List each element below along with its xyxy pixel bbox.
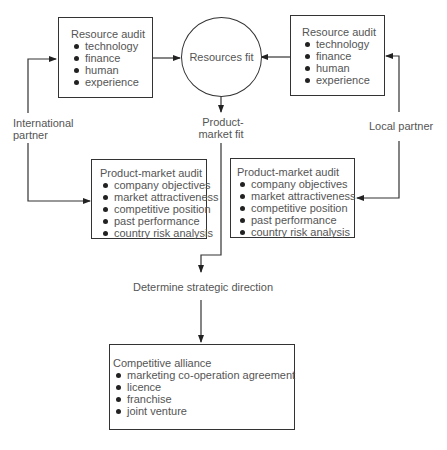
product-market-fit-label: Product- market fit xyxy=(202,116,244,140)
list-item: franchise xyxy=(113,393,294,405)
list-item: competitive position xyxy=(100,203,206,215)
resource-audit-left-list: technology finance human experience xyxy=(71,40,152,88)
product-market-audit-right-box: Product-market audit company objectives … xyxy=(230,158,355,238)
list-item: technology xyxy=(71,40,152,52)
strategic-direction-label: Determine strategic direction xyxy=(133,281,273,293)
list-item: company objectives xyxy=(237,178,354,190)
list-item: joint venture xyxy=(113,405,294,417)
product-market-audit-right-list: company objectives market attractiveness… xyxy=(237,178,354,238)
product-market-audit-left-title: Product-market audit xyxy=(100,167,206,179)
resource-audit-left-title: Resource audit xyxy=(71,28,152,40)
list-item: licence xyxy=(113,381,294,393)
resource-audit-left-box: Resource audit technology finance human … xyxy=(58,17,153,98)
list-item: technology xyxy=(302,38,384,50)
list-item: finance xyxy=(71,52,152,64)
list-item: country risk analysis xyxy=(100,227,206,239)
competitive-alliance-list: marketing co-operation agreement licence… xyxy=(113,369,294,417)
list-item: past performance xyxy=(237,214,354,226)
product-market-fit-line1: Product- xyxy=(202,116,244,128)
product-market-audit-left-list: company objectives market attractiveness… xyxy=(100,179,206,239)
international-partner-line2: partner xyxy=(13,129,74,141)
resource-audit-right-box: Resource audit technology finance human … xyxy=(290,15,385,96)
list-item: country risk analysis xyxy=(237,226,354,238)
resource-audit-right-list: technology finance human experience xyxy=(302,38,384,86)
list-item: human xyxy=(302,62,384,74)
list-item: marketing co-operation agreement xyxy=(113,369,294,381)
product-market-audit-right-title: Product-market audit xyxy=(237,166,354,178)
international-partner-label: International partner xyxy=(13,117,74,141)
list-item: market attractiveness xyxy=(237,190,354,202)
list-item: past performance xyxy=(100,215,206,227)
resources-fit-circle: Resources fit xyxy=(181,17,262,97)
product-market-audit-left-box: Product-market audit company objectives … xyxy=(91,159,207,239)
list-item: experience xyxy=(302,74,384,86)
list-item: human xyxy=(71,64,152,76)
product-market-fit-line2: market fit xyxy=(198,128,244,140)
resource-audit-right-title: Resource audit xyxy=(302,26,384,38)
list-item: finance xyxy=(302,50,384,62)
list-item: company objectives xyxy=(100,179,206,191)
international-partner-line1: International xyxy=(13,117,74,129)
list-item: experience xyxy=(71,76,152,88)
competitive-alliance-title: Competitive alliance xyxy=(113,357,294,369)
list-item: competitive position xyxy=(237,202,354,214)
competitive-alliance-box: Competitive alliance marketing co-operat… xyxy=(109,344,295,430)
local-partner-label: Local partner xyxy=(369,120,433,132)
resources-fit-label: Resources fit xyxy=(189,51,253,63)
list-item: market attractiveness xyxy=(100,191,206,203)
